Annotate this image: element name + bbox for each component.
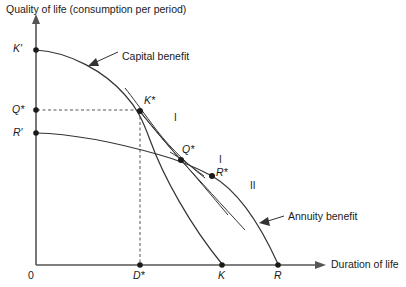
- x-axis-arrowhead: [315, 261, 326, 269]
- y-axis-title: Quality of life (consumption per period): [6, 4, 186, 15]
- annuity-benefit-label: Annuity benefit: [288, 211, 357, 222]
- x-tick-k: K: [218, 270, 225, 281]
- tangent-segment-at-q-star: [170, 152, 204, 176]
- point-r-axis: [275, 262, 281, 268]
- indifference-curve-I-at-k-star: [125, 88, 205, 178]
- y-tick-k-prime: K′: [13, 43, 22, 54]
- point-r-star: [209, 173, 215, 179]
- capital-benefit-curve: [36, 50, 222, 264]
- annuity-benefit-curve: [36, 133, 278, 264]
- x-tick-r: R: [274, 270, 282, 281]
- point-k-axis: [219, 262, 225, 268]
- capital-benefit-label: Capital benefit: [122, 51, 189, 62]
- point-label-k-star: K*: [144, 95, 155, 106]
- economics-figure: Quality of life (consumption per period)…: [0, 0, 406, 287]
- y-tick-r-prime: R′: [13, 127, 23, 138]
- figure-canvas: [0, 0, 406, 287]
- point-r-prime: [33, 130, 39, 136]
- capital-benefit-annotation-leader: [88, 52, 118, 66]
- point-q-star: [178, 157, 184, 163]
- annuity-benefit-annotation-leader: [259, 216, 284, 226]
- x-tick-d-star: D*: [133, 270, 145, 281]
- indifference-label-I-upper: I: [174, 113, 177, 123]
- origin-label: 0: [28, 270, 34, 281]
- point-label-q-star: Q*: [182, 144, 194, 155]
- indifference-label-II: II: [250, 181, 256, 191]
- guide-lines-group: [37, 110, 140, 264]
- point-d-star: [137, 262, 143, 268]
- point-q-star-axis: [33, 107, 39, 113]
- y-tick-q-star: Q*: [12, 104, 24, 115]
- point-label-r-star: R*: [216, 167, 228, 178]
- point-k-prime: [33, 47, 39, 53]
- point-k-star: [137, 108, 143, 114]
- x-axis-title: Duration of life: [331, 259, 399, 270]
- indifference-label-I-lower: I: [219, 155, 222, 165]
- y-axis-arrowhead: [32, 14, 40, 24]
